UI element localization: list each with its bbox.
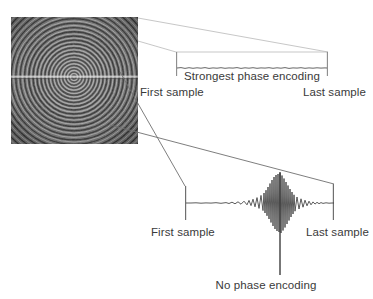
bottom-trace-line [186, 173, 334, 233]
top-trace-line [177, 68, 327, 69]
bottom-waveform-no-phase-encoding [185, 172, 334, 276]
top-first-sample-label: First sample [140, 86, 204, 98]
bottom-first-sample-label: First sample [151, 226, 215, 238]
top-last-sample-label: Last sample [303, 86, 366, 98]
figure-canvas: Strongest phase encoding First sample La… [0, 0, 373, 299]
k-space-image [11, 17, 138, 144]
bottom-last-sample-label: Last sample [306, 226, 369, 238]
bottom-trace-caption: No phase encoding [216, 279, 317, 291]
top-trace-caption: Strongest phase encoding [184, 70, 320, 82]
